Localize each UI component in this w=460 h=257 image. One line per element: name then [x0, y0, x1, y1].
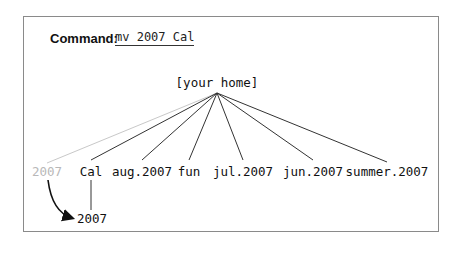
leaf-node-jul-2007: jul.2007: [213, 164, 273, 179]
directory-tree: [your home] 2007Calaug.2007funjul.2007ju…: [0, 0, 460, 257]
leaf-node-aug-2007: aug.2007: [112, 164, 172, 179]
leaf-node-fun: fun: [178, 164, 201, 179]
leaf-node-2007-old: 2007: [32, 164, 62, 179]
leaf-node-summer-2007: summer.2007: [346, 164, 429, 179]
move-arrow: [48, 180, 72, 218]
leaf-node-Cal: Cal: [80, 164, 103, 179]
edge-root-to-summer-2007: [217, 93, 387, 162]
leaf-node-jun-2007: jun.2007: [283, 164, 343, 179]
edge-root-to-2007: [47, 93, 217, 163]
root-node: [your home]: [176, 75, 259, 90]
moved-node-2007: 2007: [77, 211, 107, 226]
edge-root-to-jul-2007: [217, 93, 243, 160]
